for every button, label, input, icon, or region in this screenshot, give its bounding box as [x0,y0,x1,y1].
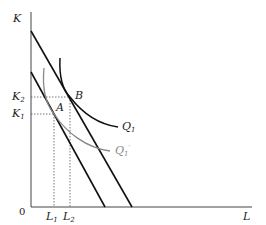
isoquant-diagram: K L 0 K2 K1 L1 L2 B A Q1 Q1′ [0,0,266,225]
x-axis-label: L [242,210,250,223]
point-a-label: A [55,101,64,114]
point-b-label: B [74,89,83,102]
origin-label: 0 [19,206,25,217]
q1-prime-label: Q1′ [115,144,131,158]
isoquant-q1 [60,58,118,127]
l2-label: L2 [62,210,75,224]
l1-label: L1 [45,210,58,224]
k2-label: K2 [11,90,25,104]
q1-label: Q1 [122,120,136,134]
k1-label: K1 [11,107,25,121]
y-axis-label: K [12,12,22,25]
outer-isocost-line [31,31,132,207]
